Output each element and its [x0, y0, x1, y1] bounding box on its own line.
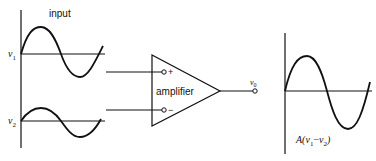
- output-waveform-label: A(v1−v2): [295, 134, 331, 148]
- input-label: input: [49, 8, 71, 19]
- v1-sine-wave: [21, 27, 103, 77]
- output-sine-wave: [285, 56, 370, 129]
- v2-label: v2: [8, 115, 16, 129]
- minus-sign: −: [168, 105, 173, 115]
- output-terminal: [253, 89, 257, 93]
- input-waveforms: input v1 v2: [8, 8, 105, 148]
- v1-label: v1: [8, 48, 16, 62]
- differential-amplifier-diagram: input v1 v2 + − amplifier v0 A(v1−v2): [0, 0, 376, 161]
- plus-sign: +: [168, 67, 173, 77]
- amplifier: + − amplifier: [152, 55, 220, 126]
- output-waveform: A(v1−v2): [285, 33, 372, 154]
- minus-terminal: [162, 108, 166, 112]
- v2-sine-wave: [21, 108, 101, 137]
- amplifier-label: amplifier: [156, 86, 194, 97]
- plus-terminal: [162, 70, 166, 74]
- output-label: v0: [250, 78, 257, 88]
